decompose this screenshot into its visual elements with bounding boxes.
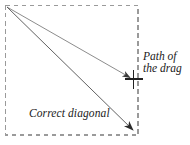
crosshair-icon bbox=[125, 70, 143, 89]
label-path-of-the-drag-line-2: the drag bbox=[143, 62, 182, 74]
label-path-of-the-drag-line-1: Path of bbox=[143, 50, 182, 62]
label-correct-diagonal: Correct diagonal bbox=[29, 107, 110, 119]
figure-canvas: Correct diagonal Path of the drag bbox=[0, 0, 190, 145]
label-path-of-the-drag: Path of the drag bbox=[143, 50, 182, 74]
